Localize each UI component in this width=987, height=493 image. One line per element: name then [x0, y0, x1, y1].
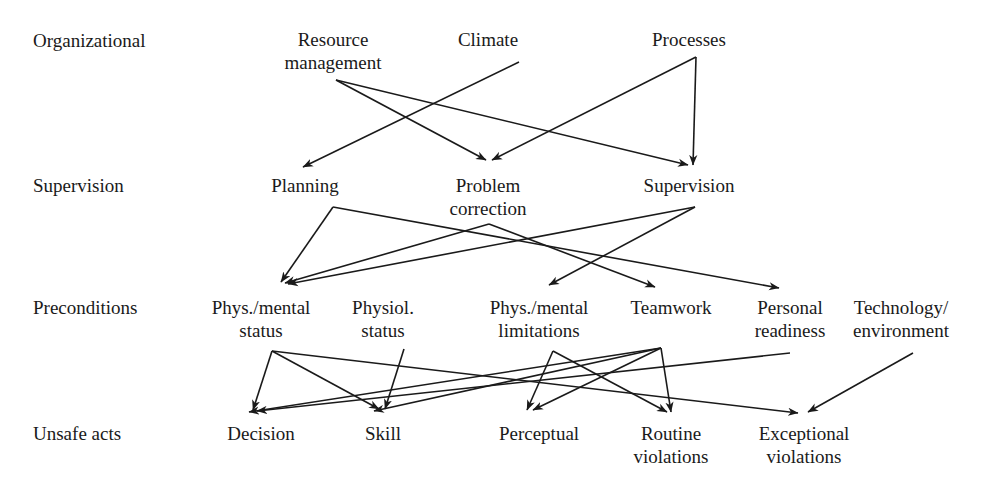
- node-label-line: Technology/: [853, 297, 949, 320]
- node-label-line: environment: [853, 320, 949, 343]
- node-label-line: Problem: [449, 175, 526, 198]
- edge-resource-management-to-supervision-node: [336, 80, 688, 165]
- node-processes: Processes: [652, 29, 726, 52]
- node-label-line: Routine: [634, 423, 709, 446]
- edge-climate-to-planning: [303, 62, 519, 167]
- edge-personal-readiness-to-decision: [257, 353, 790, 411]
- node-resource-management: Resourcemanagement: [284, 29, 381, 75]
- edge-problem-correction-to-teamwork: [489, 224, 655, 287]
- node-decision: Decision: [227, 423, 295, 446]
- node-teamwork: Teamwork: [631, 297, 712, 320]
- node-routine-violations: Routineviolations: [634, 423, 709, 469]
- node-label-line: readiness: [755, 320, 826, 343]
- tier-preconditions: Preconditions: [33, 297, 138, 319]
- edge-phys-mental-status-to-skill: [272, 351, 379, 409]
- node-label-line: Planning: [271, 175, 339, 198]
- tier-supervision: Supervision: [33, 175, 124, 197]
- node-label-line: status: [212, 320, 311, 343]
- edge-teamwork-to-perceptual: [533, 348, 661, 410]
- node-technology-environment: Technology/environment: [853, 297, 949, 343]
- node-label-line: management: [284, 52, 381, 75]
- edge-resource-management-to-problem-correction: [336, 80, 486, 160]
- hfacs-diagram: OrganizationalSupervisionPreconditionsUn…: [0, 0, 987, 493]
- node-perceptual: Perceptual: [499, 423, 579, 446]
- tier-organizational: Organizational: [33, 30, 146, 52]
- node-phys-mental-status: Phys./mentalstatus: [212, 297, 311, 343]
- node-phys-mental-limitations: Phys./mentallimitations: [490, 297, 589, 343]
- edge-physiol-status-to-skill: [385, 349, 404, 409]
- node-label-line: Phys./mental: [490, 297, 589, 320]
- node-planning: Planning: [271, 175, 339, 198]
- node-exceptional-violations: Exceptionalviolations: [759, 423, 850, 469]
- node-label-line: Skill: [365, 423, 401, 446]
- node-climate: Climate: [458, 29, 518, 52]
- node-label-line: Exceptional: [759, 423, 850, 446]
- node-label-line: Processes: [652, 29, 726, 52]
- node-supervision-node: Supervision: [644, 175, 735, 198]
- node-label-line: correction: [449, 198, 526, 221]
- edge-phys-mental-limitations-to-perceptual: [527, 351, 553, 410]
- node-label-line: Perceptual: [499, 423, 579, 446]
- edge-layer: [0, 0, 987, 493]
- node-label-line: Personal: [755, 297, 826, 320]
- node-label-line: Supervision: [644, 175, 735, 198]
- node-problem-correction: Problemcorrection: [449, 175, 526, 221]
- node-label-line: Teamwork: [631, 297, 712, 320]
- edge-teamwork-to-decision: [249, 348, 661, 412]
- node-personal-readiness: Personalreadiness: [755, 297, 826, 343]
- edge-supervision-node-to-phys-mental-limitations: [549, 207, 695, 285]
- edge-phys-mental-status-to-decision: [253, 351, 272, 410]
- node-label-line: violations: [634, 446, 709, 469]
- edge-planning-to-phys-mental-status: [281, 207, 333, 282]
- edge-phys-mental-status-to-exceptional-violations: [272, 351, 798, 413]
- node-label-line: Physiol.: [352, 297, 414, 320]
- node-label-line: Climate: [458, 29, 518, 52]
- edge-problem-correction-to-phys-mental-status: [285, 224, 489, 283]
- edges: [249, 57, 913, 413]
- tier-unsafe-acts: Unsafe acts: [33, 423, 121, 445]
- node-label-line: Phys./mental: [212, 297, 311, 320]
- edge-technology-environment-to-exceptional-violations: [808, 353, 913, 412]
- node-label-line: status: [352, 320, 414, 343]
- node-label-line: Decision: [227, 423, 295, 446]
- edge-processes-to-problem-correction: [492, 57, 696, 160]
- edge-phys-mental-limitations-to-routine-violations: [553, 351, 667, 412]
- node-label-line: limitations: [490, 320, 589, 343]
- edge-processes-to-supervision-node: [693, 57, 696, 165]
- node-physiol-status: Physiol.status: [352, 297, 414, 343]
- node-skill: Skill: [365, 423, 401, 446]
- edge-teamwork-to-routine-violations: [661, 348, 671, 412]
- edge-teamwork-to-skill: [374, 348, 661, 411]
- edge-planning-to-personal-readiness: [333, 207, 779, 288]
- node-label-line: violations: [759, 446, 850, 469]
- node-label-line: Resource: [284, 29, 381, 52]
